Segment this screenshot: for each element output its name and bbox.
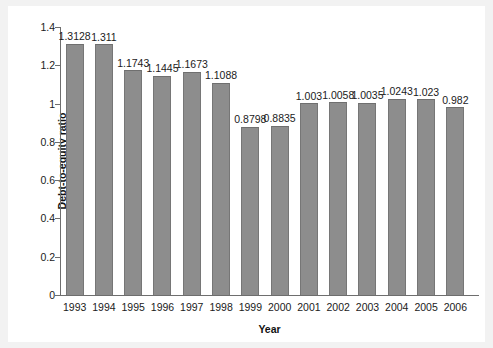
bar <box>358 103 376 295</box>
y-tick-label: 0.8 <box>40 136 55 148</box>
bar-group: 1.17431995 <box>119 27 148 295</box>
plot-area: 00.20.40.60.811.21.4 1.312819931.3111994… <box>60 27 470 295</box>
bar-group: 1.0032001 <box>294 27 323 295</box>
bar <box>66 44 84 295</box>
bar-value-label: 1.1445 <box>146 63 178 74</box>
bar-group: 1.0232005 <box>411 27 440 295</box>
x-tick-label: 2001 <box>297 301 320 313</box>
bar-value-label: 1.1673 <box>176 59 208 70</box>
bar-value-label: 1.1088 <box>205 70 237 81</box>
x-tick-label: 2005 <box>414 301 437 313</box>
bar-value-label: 0.8798 <box>234 114 266 125</box>
chart-figure: Debt-to-equity ratio Year 00.20.40.60.81… <box>8 6 485 342</box>
x-tick-label: 1994 <box>92 301 115 313</box>
bar-value-label: 0.8835 <box>264 113 296 124</box>
bar-value-label: 1.0058 <box>322 90 354 101</box>
y-tick-mark <box>55 295 60 296</box>
bar-value-label: 1.311 <box>91 32 117 43</box>
bar-group: 0.88352000 <box>265 27 294 295</box>
x-tick-label: 2000 <box>268 301 291 313</box>
y-tick-label: 0 <box>49 289 55 301</box>
bar-group: 1.00582002 <box>324 27 353 295</box>
x-tick-label: 1996 <box>151 301 174 313</box>
bar-value-label: 1.3128 <box>59 31 91 42</box>
x-tick-label: 1998 <box>209 301 232 313</box>
bar <box>212 83 230 295</box>
x-tick-label: 2003 <box>356 301 379 313</box>
y-tick-label: 0.6 <box>40 174 55 186</box>
x-tick-label: 1997 <box>180 301 203 313</box>
bar <box>271 126 289 295</box>
bar-group: 0.9822006 <box>441 27 470 295</box>
bar-group: 1.16731997 <box>177 27 206 295</box>
bar-value-label: 1.0035 <box>351 90 383 101</box>
bar-value-label: 1.003 <box>296 91 322 102</box>
y-tick-label: 1.4 <box>40 21 55 33</box>
x-tick-label: 1993 <box>63 301 86 313</box>
bar-group: 1.31281993 <box>60 27 89 295</box>
bar-value-label: 1.1743 <box>117 58 149 69</box>
x-axis-spine <box>60 295 479 296</box>
bar <box>153 76 171 295</box>
bar <box>183 72 201 295</box>
bar-group: 1.14451996 <box>148 27 177 295</box>
x-axis-title: Year <box>60 323 479 335</box>
y-tick-label: 1.2 <box>40 59 55 71</box>
bar-group: 1.02432004 <box>382 27 411 295</box>
bar <box>417 99 435 295</box>
y-tick-label: 0.4 <box>40 212 55 224</box>
x-tick-label: 1995 <box>122 301 145 313</box>
bar <box>446 107 464 295</box>
bar-group: 1.10881998 <box>206 27 235 295</box>
bar-group: 0.87981999 <box>236 27 265 295</box>
bar <box>388 99 406 295</box>
bar-value-label: 0.982 <box>442 95 468 106</box>
x-tick-label: 1999 <box>239 301 262 313</box>
bar-value-label: 1.0243 <box>381 86 413 97</box>
y-tick-label: 0.2 <box>40 251 55 263</box>
bar-group: 1.00352003 <box>353 27 382 295</box>
bar <box>300 103 318 295</box>
bar-group: 1.3111994 <box>89 27 118 295</box>
bar <box>124 70 142 295</box>
bar <box>95 44 113 295</box>
bar <box>241 127 259 295</box>
x-tick-label: 2006 <box>444 301 467 313</box>
bar <box>329 102 347 295</box>
x-tick-label: 2004 <box>385 301 408 313</box>
y-tick-label: 1 <box>49 98 55 110</box>
bar-value-label: 1.023 <box>413 87 439 98</box>
x-tick-label: 2002 <box>327 301 350 313</box>
